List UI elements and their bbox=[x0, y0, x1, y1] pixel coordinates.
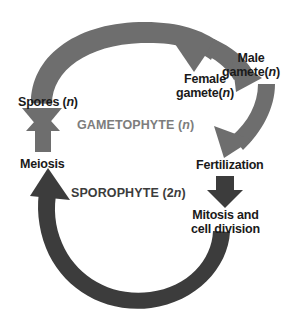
male-gamete-line1: Male bbox=[237, 51, 264, 65]
node-label-fertilization: Fertilization bbox=[196, 159, 264, 173]
female-gamete-line1: Female bbox=[184, 72, 226, 86]
gametophyte-fork-head bbox=[175, 44, 213, 72]
female-gamete-close: ) bbox=[230, 86, 234, 100]
fertilization-to-mitosis-arrow bbox=[207, 176, 243, 208]
female-gamete-line2: gamete( bbox=[176, 86, 223, 100]
sporophyte-arc-arrow bbox=[38, 186, 230, 309]
gametophyte-text: GAMETOPHYTE ( bbox=[77, 118, 182, 132]
mitosis-line2: cell division bbox=[191, 222, 260, 236]
spores-text: Spores ( bbox=[18, 95, 66, 109]
node-label-female-gamete: Female gamete(n) bbox=[176, 73, 234, 100]
life-cycle-diagram: Male gamete(n) Female gamete(n) Spores (… bbox=[0, 0, 303, 324]
spores-ploidy: n bbox=[66, 95, 73, 109]
phase-label-gametophyte: GAMETOPHYTE (n) bbox=[77, 119, 194, 133]
male-gamete-close: ) bbox=[276, 65, 280, 79]
sporophyte-text: SPOROPHYTE (2 bbox=[71, 186, 174, 200]
gametophyte-ploidy: n bbox=[182, 118, 190, 132]
female-gamete-ploidy: n bbox=[223, 86, 230, 100]
male-gamete-ploidy: n bbox=[269, 65, 276, 79]
node-label-meiosis: Meiosis bbox=[20, 158, 64, 172]
spores-close: ) bbox=[74, 95, 78, 109]
sporophyte-close: ) bbox=[181, 186, 185, 200]
fertilization-text: Fertilization bbox=[196, 158, 264, 172]
phase-label-sporophyte: SPOROPHYTE (2n) bbox=[71, 187, 186, 201]
mitosis-line1: Mitosis and bbox=[192, 208, 259, 222]
sporophyte-arc-head bbox=[30, 168, 70, 200]
gametophyte-close: ) bbox=[190, 118, 194, 132]
node-label-spores: Spores (n) bbox=[18, 96, 78, 110]
meiosis-text: Meiosis bbox=[20, 157, 64, 171]
node-label-mitosis: Mitosis and cell division bbox=[191, 208, 260, 237]
